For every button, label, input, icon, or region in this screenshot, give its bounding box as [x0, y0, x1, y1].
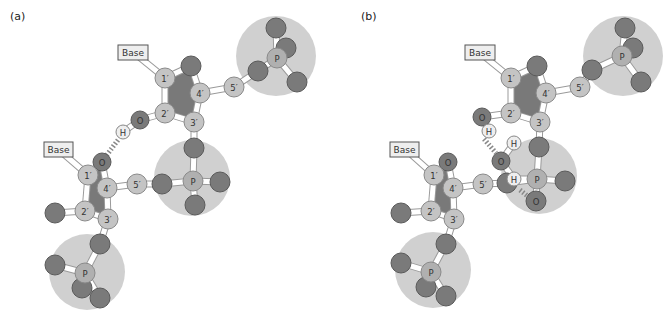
atom-label: 2′ — [507, 109, 514, 119]
atom-label: O — [445, 158, 452, 168]
atom-label: 4′ — [196, 89, 203, 99]
oxygen-atom — [436, 286, 456, 306]
atom-label: 5′ — [479, 180, 486, 190]
atom-label: H — [511, 175, 517, 185]
atom-label: O — [533, 197, 540, 207]
atom-label: 1′ — [430, 171, 437, 181]
oxygen-atom — [631, 72, 651, 92]
atom-label: 2′ — [81, 207, 88, 217]
atom-label: 3′ — [450, 215, 457, 225]
atom-label: 1′ — [507, 74, 514, 84]
oxygen-atom — [266, 18, 286, 38]
atom-label: 4′ — [103, 184, 110, 194]
oxygen-atom — [391, 253, 411, 273]
atom-label: 2′ — [161, 109, 168, 119]
oxygen-atom — [436, 234, 456, 254]
panel-a: (a)P1′4′5′2′3′OHPO1′4′5′2′3′PBaseBase — [10, 10, 316, 310]
atom-label: H — [120, 128, 126, 138]
atom-label: 1′ — [161, 74, 168, 84]
oxygen-atom — [391, 203, 411, 223]
base-label: Base — [469, 48, 491, 58]
atom-label: O — [99, 158, 106, 168]
atom-label: P — [82, 269, 87, 279]
hydrogen-bond — [106, 140, 118, 156]
base-label: Base — [394, 145, 416, 155]
atom-label: 5′ — [133, 180, 140, 190]
oxygen-atom — [582, 60, 602, 80]
oxygen-atom — [527, 56, 547, 76]
atom-label: O — [137, 116, 144, 126]
atom-label: P — [619, 52, 624, 62]
oxygen-atom — [45, 255, 65, 275]
atom-label: 4′ — [449, 184, 456, 194]
atom-label: 4′ — [542, 89, 549, 99]
oxygen-atom — [210, 172, 230, 192]
oxygen-atom — [615, 18, 635, 38]
oxygen-atom — [152, 174, 172, 194]
oxygen-atom — [181, 56, 201, 76]
base-label: Base — [48, 145, 70, 155]
atom-label: P — [274, 54, 279, 64]
oxygen-atom — [287, 72, 307, 92]
oxygen-atom — [184, 138, 204, 158]
atom-label: 5′ — [230, 83, 237, 93]
oxygen-atom — [90, 234, 110, 254]
nucleotide-diagram: (a)P1′4′5′2′3′OHPO1′4′5′2′3′PBaseBase (b… — [0, 0, 671, 319]
atom-label: 3′ — [104, 215, 111, 225]
atom-label: 5′ — [576, 83, 583, 93]
atom-label: 3′ — [190, 118, 197, 128]
oxygen-atom — [45, 203, 65, 223]
oxygen-atom — [90, 288, 110, 308]
atom-label: H — [511, 139, 517, 149]
hydrogen-bond — [484, 139, 496, 153]
atom-label: P — [190, 177, 195, 187]
atom-label: P — [428, 268, 433, 278]
panel-label: (b) — [361, 10, 377, 23]
atom-label: H — [486, 127, 492, 137]
oxygen-atom — [185, 195, 205, 215]
base-label: Base — [122, 48, 144, 58]
oxygen-atom — [555, 171, 575, 191]
atom-label: O — [479, 113, 486, 123]
oxygen-atom — [248, 61, 268, 81]
atom-label: 2′ — [427, 207, 434, 217]
atom-label: 3′ — [536, 118, 543, 128]
atom-label: 1′ — [84, 171, 91, 181]
panel-b: (b)P1′4′5′2′3′OHOOHHPO1′4′5′2′3′PBaseBas… — [361, 10, 663, 308]
atom-label: P — [534, 175, 539, 185]
oxygen-atom — [529, 137, 549, 157]
panel-label: (a) — [10, 10, 25, 23]
atom-label: O — [498, 157, 505, 167]
